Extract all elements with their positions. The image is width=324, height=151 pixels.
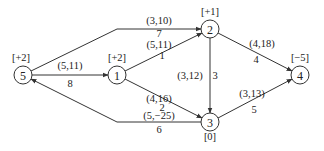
edges-group: (3,10)7(5,11)8(5,11)1(4,16)2(3,12)3(4,18…	[31, 15, 292, 135]
edge-index-label: 6	[156, 124, 161, 135]
edge-arrow-line	[31, 29, 201, 71]
node-2: 2[+1]	[201, 6, 219, 38]
edge-params-label: (5,11)	[58, 60, 83, 72]
edge-params-label: (5,−25)	[143, 110, 175, 122]
edge-index-label: 7	[156, 28, 161, 39]
node-supply-label: [+2]	[12, 52, 30, 63]
edge-3-4: (3,13)5	[218, 79, 292, 118]
edge-index-label: 5	[251, 104, 256, 115]
network-diagram: (3,10)7(5,11)8(5,11)1(4,16)2(3,12)3(4,18…	[0, 0, 324, 151]
node-supply-label: [+2]	[108, 52, 126, 63]
edge-params-label: (3,13)	[239, 88, 265, 100]
node-label: 5	[20, 69, 26, 83]
edge-params-label: (3,12)	[177, 70, 203, 82]
edge-index-label: 3	[212, 70, 217, 81]
node-label: 2	[207, 23, 213, 37]
node-5: 5[+2]	[12, 52, 32, 84]
edge-1-2: (5,11)1	[125, 33, 202, 71]
node-supply-label: [−5]	[291, 52, 309, 63]
edge-arrow-line	[31, 79, 201, 122]
edge-2-4: (4,18)4	[218, 33, 292, 71]
edge-index-label: 1	[159, 50, 164, 61]
node-label: 4	[297, 69, 303, 83]
edge-params-label: (4,18)	[249, 38, 275, 50]
node-3: 3[0]	[201, 113, 219, 142]
edge-index-label: 8	[67, 78, 72, 89]
node-4: 4[−5]	[291, 52, 309, 84]
edge-index-label: 4	[253, 54, 259, 65]
edge-2-3: (3,12)3	[177, 38, 217, 113]
node-supply-label: [0]	[204, 131, 216, 142]
node-label: 1	[114, 69, 120, 83]
node-supply-label: [+1]	[201, 6, 219, 17]
node-1: 1[+2]	[108, 52, 126, 84]
node-label: 3	[207, 116, 213, 130]
edge-params-label: (3,10)	[146, 15, 172, 27]
edge-3-5: (5,−25)6	[31, 79, 201, 135]
